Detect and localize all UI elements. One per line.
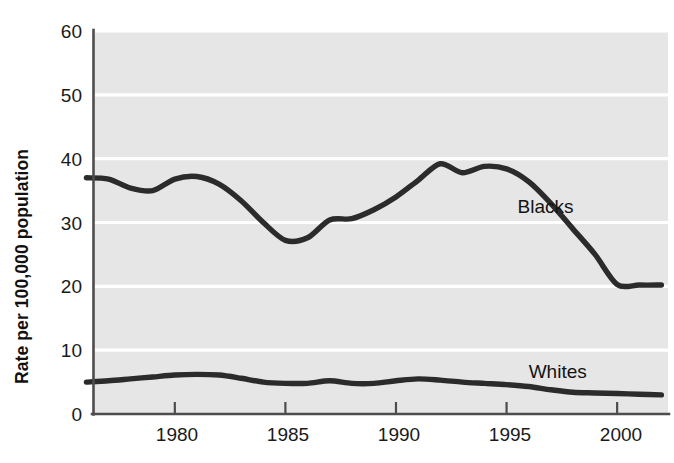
x-tick-label-1990: 1990 [378,424,420,445]
y-tick-label-0: 0 [71,404,82,425]
x-tick-label-1985: 1985 [267,424,309,445]
y-tick-label-60: 60 [61,21,82,42]
chart-figure: 0 10 20 30 40 50 60 1980 1985 1990 1995 … [0,0,674,463]
x-tick-label-1980: 1980 [156,424,198,445]
line-chart: 0 10 20 30 40 50 60 1980 1985 1990 1995 … [0,0,674,463]
y-tick-label-50: 50 [61,85,82,106]
series-label-whites: Whites [529,361,587,382]
y-tick-label-40: 40 [61,149,82,170]
y-tick-label-20: 20 [61,276,82,297]
y-axis-title: Rate per 100,000 population [12,149,32,384]
x-tick-label-2000: 2000 [600,424,642,445]
y-tick-label-10: 10 [61,340,82,361]
x-tick-label-1995: 1995 [489,424,531,445]
series-label-blacks: Blacks [518,196,574,217]
y-tick-label-30: 30 [61,213,82,234]
